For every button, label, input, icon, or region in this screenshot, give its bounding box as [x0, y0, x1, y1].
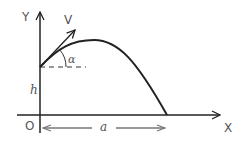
origin-label: O — [25, 120, 34, 132]
angle-arc — [60, 50, 66, 67]
projectile-diagram: Y X O V α h a — [0, 0, 242, 142]
angle-label: α — [68, 54, 75, 65]
y-axis-label: Y — [22, 11, 29, 23]
x-axis-label: X — [224, 122, 232, 134]
velocity-label: V — [64, 14, 72, 26]
distance-label: a — [100, 121, 107, 133]
height-label: h — [30, 84, 38, 96]
trajectory-curve — [40, 40, 167, 115]
diagram-canvas — [0, 0, 242, 142]
